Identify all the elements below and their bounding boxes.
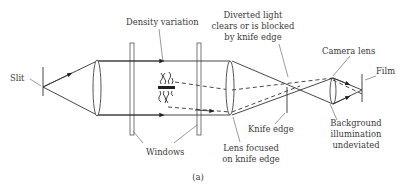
label-windows: Windows bbox=[146, 147, 184, 157]
leader-knife bbox=[275, 113, 285, 124]
label-diverted-3: by knife edge bbox=[224, 32, 281, 42]
density-variation-icon bbox=[158, 72, 175, 103]
label-slit: Slit bbox=[10, 73, 25, 83]
leader-film bbox=[365, 76, 376, 80]
window-left-icon bbox=[130, 43, 134, 135]
label-background-1: Background bbox=[330, 118, 382, 128]
leader-slit bbox=[30, 79, 41, 86]
label-lens-focused-1: Lens focused bbox=[223, 143, 279, 153]
leader-lens-focused bbox=[233, 117, 240, 142]
label-background-2: illumination bbox=[331, 129, 383, 139]
label-background-3: undeviated bbox=[332, 140, 380, 150]
leader-window-right bbox=[174, 125, 197, 143]
label-film: Film bbox=[376, 66, 395, 76]
leader-camera bbox=[333, 56, 350, 76]
schlieren-diagram: Slit Density variation Windows Diverted … bbox=[0, 0, 400, 191]
camera-lens-icon bbox=[330, 78, 336, 104]
ray-focus-top bbox=[232, 61, 333, 104]
ray-slit-to-lens-bottom bbox=[43, 87, 97, 115]
diverted-ray-lower-2 bbox=[232, 86, 300, 112]
window-right-icon bbox=[197, 43, 201, 135]
label-diverted-2: clears or is blocked bbox=[212, 21, 295, 31]
focusing-lens-icon bbox=[226, 61, 234, 115]
leader-diverted bbox=[279, 44, 288, 77]
diverted-ray-upper bbox=[175, 82, 230, 90]
label-knife-edge: Knife edge bbox=[248, 124, 294, 134]
label-diverted-1: Diverted light bbox=[224, 10, 284, 20]
label-density-variation: Density variation bbox=[126, 17, 199, 27]
label-lens-focused-2: on knife edge bbox=[222, 154, 280, 164]
ray-arrow-1 bbox=[43, 74, 70, 87]
leader-window-left bbox=[133, 131, 143, 143]
collimating-lens-icon bbox=[93, 60, 101, 116]
label-camera-lens: Camera lens bbox=[322, 46, 375, 56]
figure-caption: (a) bbox=[192, 172, 204, 182]
leader-density bbox=[159, 29, 163, 62]
